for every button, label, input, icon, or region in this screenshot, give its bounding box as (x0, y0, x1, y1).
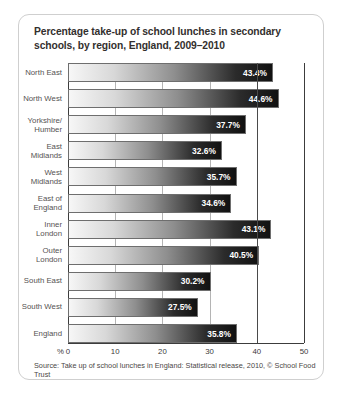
x-axis-line (68, 343, 304, 344)
gridline-40 (257, 63, 258, 343)
bar-value-label: 32.6% (192, 146, 216, 156)
bar-value-label: 40.5% (229, 250, 253, 260)
bar[interactable]: 40.5% (68, 246, 259, 265)
x-tick-label-20: 20 (158, 347, 167, 356)
bar-value-label: 43.1% (242, 224, 266, 234)
category-label: East Midlands (0, 142, 62, 160)
gridline-50 (304, 63, 305, 343)
bar-row: East of England34.6% (68, 194, 304, 213)
category-label: East of England (0, 194, 62, 212)
x-tick-label-40: 40 (252, 347, 261, 356)
bar-value-label: 37.7% (216, 120, 240, 130)
category-label: Outer London (0, 246, 62, 264)
bar-row: Yorkshire/ Humber37.7% (68, 115, 304, 134)
source-note: Source: Take up of school lunches in Eng… (34, 361, 319, 379)
x-tick-label-30: 30 (205, 347, 214, 356)
x-tick-label-10: 10 (111, 347, 120, 356)
bar[interactable]: 35.8% (68, 324, 237, 343)
bar-row: South West27.5% (68, 298, 304, 317)
percent-symbol: % (57, 347, 64, 356)
bar[interactable]: 35.7% (68, 167, 237, 186)
bar-row: South East30.2% (68, 272, 304, 291)
bar-value-label: 34.6% (202, 198, 226, 208)
category-label: Yorkshire/ Humber (0, 115, 62, 133)
bar[interactable]: 43.4% (68, 63, 273, 82)
category-label: South West (0, 303, 62, 312)
category-label: South East (0, 277, 62, 286)
bar-value-label: 43.4% (243, 68, 267, 78)
bar[interactable]: 32.6% (68, 141, 222, 160)
bar-row: Inner London43.1% (68, 220, 304, 239)
bar[interactable]: 43.1% (68, 220, 271, 239)
bar-row: West Midlands35.7% (68, 167, 304, 186)
chart-title: Percentage take-up of school lunches in … (34, 25, 316, 52)
x-tick-label-0: 0 (66, 347, 70, 356)
bar-value-label: 44.6% (249, 94, 273, 104)
bar-row: North East43.4% (68, 63, 304, 82)
bar-value-label: 35.8% (207, 329, 231, 339)
chart-card: Percentage take-up of school lunches in … (18, 14, 324, 380)
category-label: West Midlands (0, 168, 62, 186)
source-text: Source: Take up of school lunches in Eng… (34, 361, 315, 379)
category-label: England (0, 329, 62, 338)
bar[interactable]: 37.7% (68, 115, 246, 134)
category-label: North East (0, 68, 62, 77)
category-label: North West (0, 94, 62, 103)
category-label: Inner London (0, 220, 62, 238)
bar-value-label: 35.7% (207, 172, 231, 182)
bar-value-label: 27.5% (168, 302, 192, 312)
bar-value-label: 30.2% (181, 276, 205, 286)
bar[interactable]: 27.5% (68, 298, 198, 317)
x-tick-label-50: 50 (300, 347, 309, 356)
bar[interactable]: 44.6% (68, 89, 279, 108)
bar-row: North West44.6% (68, 89, 304, 108)
bar[interactable]: 34.6% (68, 194, 231, 213)
bar[interactable]: 30.2% (68, 272, 211, 291)
plot-area: North East43.4%North West44.6%Yorkshire/… (68, 63, 304, 343)
bar-row: England35.8% (68, 324, 304, 343)
bar-row: Outer London40.5% (68, 246, 304, 265)
bar-row: East Midlands32.6% (68, 141, 304, 160)
